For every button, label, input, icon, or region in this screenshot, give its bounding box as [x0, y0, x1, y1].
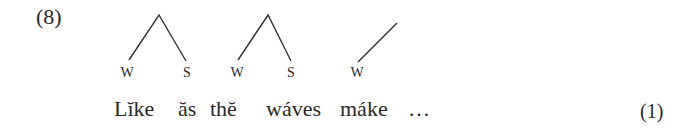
- equation-number: (1): [640, 100, 663, 123]
- tree-1-strong-label: S: [183, 66, 191, 80]
- ellipsis: …: [408, 96, 430, 122]
- word-like: Lĭke: [114, 96, 154, 122]
- word-waves: wáves: [266, 96, 321, 122]
- tree-2-branches: [238, 15, 291, 61]
- word-as: ăs: [178, 96, 196, 122]
- tree-1-branches: [129, 15, 186, 61]
- word-the: thĕ: [210, 96, 237, 122]
- tree-2-strong-label: S: [287, 66, 295, 80]
- tree-2-weak-label: W: [230, 66, 243, 80]
- tree-1-weak-label: W: [120, 66, 133, 80]
- word-make: máke: [340, 96, 388, 122]
- tree-3-branch: [358, 23, 397, 62]
- tree-3-weak-label: W: [350, 66, 363, 80]
